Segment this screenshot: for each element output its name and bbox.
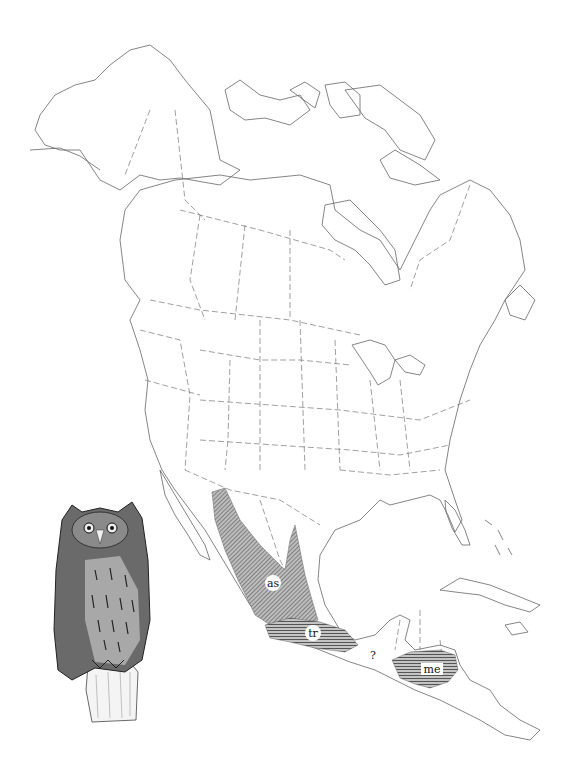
range-areas bbox=[212, 488, 458, 688]
hudson-bay bbox=[322, 200, 400, 285]
label-as-text: as bbox=[267, 577, 280, 590]
label-tr-text: tr bbox=[308, 627, 318, 640]
baja-california bbox=[160, 470, 210, 560]
cuba bbox=[440, 578, 540, 612]
range-map: as tr me ? bbox=[0, 0, 576, 758]
owl-illustration bbox=[54, 502, 150, 722]
label-me: me bbox=[421, 663, 443, 676]
great-lakes bbox=[352, 340, 395, 385]
range-as bbox=[212, 488, 318, 630]
label-tr: tr bbox=[305, 625, 321, 641]
label-me-text: me bbox=[424, 663, 441, 676]
arctic-islands bbox=[225, 80, 310, 125]
label-as: as bbox=[265, 575, 281, 591]
uncertain-marker: ? bbox=[370, 649, 376, 662]
mainland-coast bbox=[120, 175, 540, 740]
alaska-coast bbox=[35, 45, 240, 190]
